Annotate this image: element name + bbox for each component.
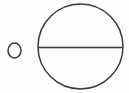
figure-svg (0, 0, 129, 93)
diagram-canvas (0, 0, 129, 93)
